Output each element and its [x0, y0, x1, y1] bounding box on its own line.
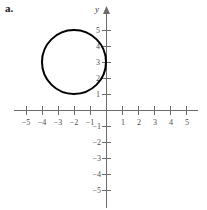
y-tick-label: 1: [96, 90, 100, 99]
y-axis-label: y: [94, 4, 99, 14]
y-tick-label: 5: [96, 26, 100, 35]
y-tick-label: −1: [92, 122, 101, 131]
x-tick-label: 4: [169, 118, 173, 127]
y-tick-label: −2: [92, 138, 101, 147]
x-tick-label: 5: [185, 118, 189, 127]
y-tick-label: −4: [92, 170, 101, 179]
x-axis-tick-labels: −5 −4 −3 −2 −1 1 2 3 4 5: [22, 118, 189, 127]
y-tick-label: 3: [96, 58, 100, 67]
x-tick-label: 1: [121, 118, 125, 127]
y-axis-arrow-icon: [103, 6, 110, 14]
y-tick-label: −5: [92, 186, 101, 195]
x-tick-label: 2: [137, 118, 141, 127]
x-tick-label: 3: [153, 118, 157, 127]
x-tick-label: −2: [70, 118, 79, 127]
x-tick-label: −3: [54, 118, 63, 127]
coordinate-plane-graph: y −5 −4 −3 −2 −1 1 2 3 4 5: [0, 0, 207, 210]
x-tick-label: −4: [38, 118, 47, 127]
x-tick-label: −5: [22, 118, 31, 127]
y-tick-label: −3: [92, 154, 101, 163]
